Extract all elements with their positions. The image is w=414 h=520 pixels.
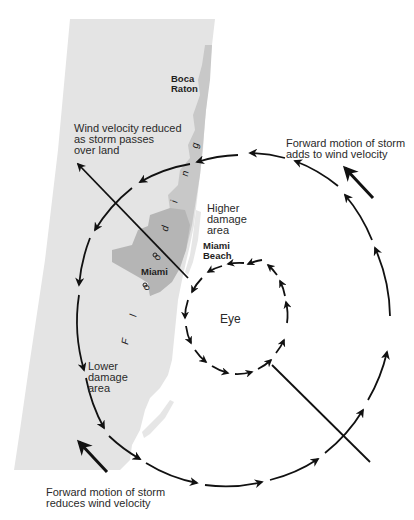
- label-forward-reduces-velocity: Forward motion of storm reduces wind vel…: [46, 487, 165, 509]
- forward-motion-arrow-upper: [345, 168, 373, 198]
- city-label-miami: Miami: [141, 267, 168, 277]
- miami-beach-line-2: Beach: [203, 251, 232, 261]
- label-line: area: [207, 225, 247, 236]
- label-wind-reduced-over-land: Wind velocity reduced as storm passes ov…: [74, 123, 182, 156]
- keys-island: [142, 400, 174, 438]
- city-label-boca-raton: Boca Raton: [171, 74, 198, 94]
- label-line: area: [88, 383, 128, 394]
- label-eye: Eye: [220, 314, 241, 325]
- label-line: reduces wind velocity: [46, 498, 165, 509]
- label-line: over land: [74, 145, 182, 156]
- label-line: adds to wind velocity: [286, 149, 405, 160]
- storm-track-line-lower: [272, 365, 370, 462]
- boca-raton-line-2: Raton: [171, 84, 198, 94]
- label-lower-damage-area: Lower damage area: [88, 361, 128, 394]
- label-higher-damage-area: Higher damage area: [207, 203, 247, 236]
- label-forward-adds-velocity: Forward motion of storm adds to wind vel…: [286, 138, 405, 160]
- city-label-miami-beach: Miami Beach: [203, 241, 232, 261]
